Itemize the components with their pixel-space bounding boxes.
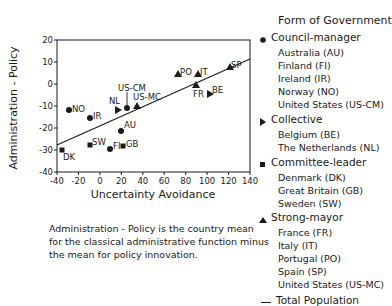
label-fi: FI (113, 141, 120, 151)
legend-item: Norway (NO) (278, 86, 339, 97)
legend-item: Australia (AU) (278, 47, 344, 58)
x-tick-label: 120 (220, 176, 236, 186)
point-gb (121, 144, 126, 149)
label-us-mc: US-MC (133, 92, 161, 102)
y-tick-label: 10 (42, 57, 53, 67)
legend-item: United States (US-CM) (278, 99, 384, 110)
y-tick-labels: 20 10 0 -10 -20 -30 -40 (39, 35, 53, 177)
y-tick-label: -20 (39, 123, 53, 133)
legend-group-collective: Collective (271, 113, 323, 125)
x-tick-label: 40 (137, 176, 148, 186)
legend-item: United States (US-MC) (278, 279, 384, 290)
label-po: PO (180, 67, 192, 77)
x-tick-label: -20 (71, 176, 85, 186)
label-no: NO (72, 104, 85, 114)
legend-item: The Netherlands (NL) (278, 142, 379, 153)
y-tick-label: -30 (39, 145, 53, 155)
point-nl (115, 106, 122, 114)
trend-line-total-population (57, 59, 250, 145)
caption-line: the mean for policy innovation. (49, 248, 269, 261)
x-tick-label: 0 (97, 176, 102, 186)
legend-item: Italy (IT) (278, 240, 318, 251)
triangle-right-marker-icon (259, 118, 267, 126)
x-tick-label: 60 (159, 176, 170, 186)
legend-group-strong-mayor: Strong-mayor (271, 211, 343, 223)
point-us-mc (133, 102, 141, 109)
x-tick-label: 80 (180, 176, 191, 186)
legend-item: Belgium (BE) (278, 129, 340, 140)
legend-item: France (FR) (278, 227, 332, 238)
label-gb: GB (126, 139, 139, 149)
label-sw: SW (92, 137, 106, 147)
x-tick-label: 20 (116, 176, 127, 186)
plot-frame (57, 40, 250, 172)
legend-item: Portugal (PO) (278, 253, 341, 264)
legend-title: Form of Government (278, 14, 392, 27)
legend-item: Ireland (IR) (278, 73, 331, 84)
label-fr: FR (193, 89, 204, 99)
y-axis-title: Administration - Policy (7, 46, 20, 170)
legend-group-council-manager: Council-manager (271, 31, 361, 43)
caption-line: Administration - Policy is the country m… (49, 222, 269, 235)
circle-marker-icon (259, 36, 267, 44)
legend-item: Great Britain (GB) (278, 185, 363, 196)
label-nl: NL (109, 96, 120, 106)
square-marker-icon (259, 161, 267, 169)
chart-caption: Administration - Policy is the country m… (49, 222, 269, 261)
caption-line: for the classical administrative functio… (49, 235, 269, 248)
label-be: BE (212, 85, 223, 95)
legend-item: Finland (FI) (278, 60, 331, 71)
point-us-cm (124, 105, 130, 111)
legend-item: Sweden (SW) (278, 198, 341, 209)
label-ir: IR (93, 111, 102, 121)
x-tick-label: 100 (199, 176, 215, 186)
label-it: IT (200, 67, 209, 77)
legend-total-population: Total Population (276, 294, 359, 306)
legend-group-committee-leader: Committee-leader (271, 156, 366, 168)
label-au: AU (124, 120, 136, 130)
label-dk: DK (63, 152, 76, 162)
label-sp: SP (231, 60, 242, 70)
line-marker-icon (261, 302, 271, 303)
x-tick-label: 140 (242, 176, 258, 186)
legend-item: Spain (SP) (278, 266, 327, 277)
y-tick-label: 0 (48, 79, 53, 89)
y-tick-label: 20 (42, 35, 53, 45)
y-tick-label: -10 (39, 101, 53, 111)
x-tick-labels: -40 -20 0 20 40 60 80 100 120 140 (50, 176, 258, 186)
x-tick-label: -40 (50, 176, 64, 186)
x-axis-title: Uncertainty Avoidance (91, 188, 216, 201)
legend-item: Denmark (DK) (278, 172, 346, 183)
